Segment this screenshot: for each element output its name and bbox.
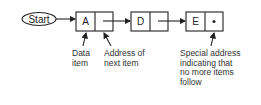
- node-data: D: [137, 16, 144, 27]
- data-item-arrow: [83, 33, 86, 46]
- next-address-label: Address of next item: [104, 49, 145, 68]
- null-address-arrow: [211, 33, 214, 46]
- start-label: Start: [28, 14, 49, 25]
- data-item-label: Data item: [72, 49, 90, 68]
- null-address-label: Special address indicating that no more …: [180, 49, 240, 87]
- node-data: E: [192, 16, 199, 27]
- null-pointer-icon: [213, 20, 216, 23]
- start-node: Start: [22, 13, 56, 26]
- node-data: A: [82, 16, 89, 27]
- address-arrow: [104, 33, 111, 46]
- list-node-e: E: [186, 12, 223, 31]
